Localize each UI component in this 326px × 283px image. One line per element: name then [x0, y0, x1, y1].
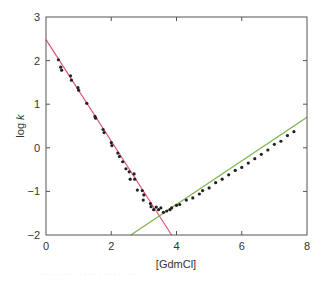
y-tick-label: 3 [34, 11, 40, 23]
data-point [110, 144, 113, 147]
data-point [208, 186, 211, 189]
data-point [170, 206, 173, 209]
data-point [191, 196, 194, 199]
data-point [94, 117, 97, 120]
x-tick-label: 2 [108, 240, 114, 252]
data-point [136, 188, 139, 191]
data-point [162, 211, 165, 214]
data-point [221, 178, 224, 181]
data-point [149, 205, 152, 208]
data-point [141, 189, 144, 192]
data-point [185, 199, 188, 202]
data-points [57, 58, 296, 214]
data-point [247, 161, 250, 164]
y-tick-label: 0 [34, 142, 40, 154]
data-point [133, 178, 136, 181]
y-axis-ticks: −2−10123 [27, 11, 307, 241]
data-point [132, 172, 135, 175]
data-point [234, 169, 237, 172]
data-point [227, 173, 230, 176]
x-tick-label: 0 [43, 240, 49, 252]
data-point [155, 205, 158, 208]
fit-line [131, 117, 307, 235]
fit-line [46, 40, 172, 235]
data-point [279, 140, 282, 143]
data-point [292, 130, 295, 133]
data-point [273, 143, 276, 146]
data-point [178, 203, 181, 206]
data-point [124, 167, 127, 170]
data-point [201, 189, 204, 192]
x-tick-label: 6 [239, 240, 245, 252]
data-point [253, 157, 256, 160]
data-point [152, 208, 155, 211]
x-tick-label: 8 [304, 240, 310, 252]
data-point [165, 209, 168, 212]
data-point [128, 170, 131, 173]
chevron-plot: 02468 −2−10123 [GdmCl] log k [0, 0, 326, 283]
data-point [260, 153, 263, 156]
data-point [60, 69, 63, 72]
plot-frame [46, 17, 307, 235]
data-point [214, 181, 217, 184]
data-point [286, 134, 289, 137]
data-point [69, 74, 72, 77]
data-point [59, 66, 62, 69]
data-point [142, 199, 145, 202]
data-point [121, 160, 124, 163]
data-point [129, 178, 132, 181]
data-point [240, 166, 243, 169]
data-point [175, 204, 178, 207]
data-point [142, 193, 145, 196]
x-axis-label: [GdmCl] [156, 258, 196, 270]
data-point [198, 192, 201, 195]
data-point [118, 155, 121, 158]
data-point [101, 128, 104, 131]
data-point [102, 131, 105, 134]
x-axis-ticks: 02468 [43, 17, 310, 252]
data-point [85, 102, 88, 105]
data-point [266, 148, 269, 151]
data-point [159, 206, 162, 209]
data-point [116, 151, 119, 154]
figure-caption: · · · · · · · · · · · · · · · · · · · · … [40, 270, 140, 279]
data-point [110, 141, 113, 144]
y-tick-label: −2 [27, 229, 40, 241]
y-axis-label: log k [14, 114, 26, 138]
data-point [149, 202, 152, 205]
y-tick-label: −1 [27, 185, 40, 197]
y-tick-label: 2 [34, 55, 40, 67]
data-point [57, 58, 60, 61]
data-point [77, 89, 80, 92]
y-tick-label: 1 [34, 98, 40, 110]
data-point [70, 79, 73, 82]
x-tick-label: 4 [173, 240, 179, 252]
